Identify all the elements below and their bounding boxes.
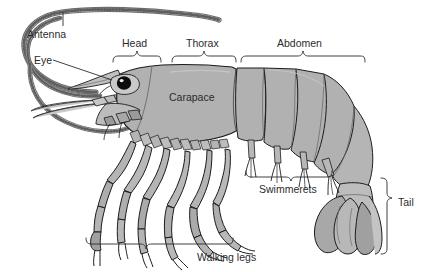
shrimp-anatomy-diagram: Antenna Eye Head Thorax Abdomen Carapace… — [0, 0, 428, 272]
label-walking-legs: Walking legs — [197, 252, 256, 263]
label-tail: Tail — [398, 197, 414, 208]
abdomen-bracket — [241, 51, 365, 62]
label-swimmerets: Swimmerets — [259, 184, 317, 195]
tail-bracket — [381, 178, 392, 254]
label-carapace: Carapace — [169, 92, 215, 103]
label-eye: Eye — [34, 55, 52, 66]
label-antenna: Antenna — [27, 29, 66, 40]
uropods — [314, 196, 382, 255]
label-abdomen: Abdomen — [277, 38, 322, 49]
label-thorax: Thorax — [186, 38, 219, 49]
eye-leader-line — [53, 60, 112, 80]
label-head: Head — [122, 38, 147, 49]
head-bracket — [113, 51, 161, 62]
thorax-bracket — [172, 51, 236, 62]
swimmerets-bracket — [246, 171, 332, 181]
walking-legs-bracket — [86, 238, 233, 249]
